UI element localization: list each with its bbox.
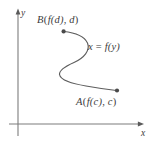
point-marker-a (115, 88, 119, 92)
y-axis (16, 9, 21, 137)
arrow-right-icon (138, 122, 144, 127)
point-label-a-inner-arg: (c) (90, 96, 102, 107)
point-label-a-comma: , (102, 96, 105, 107)
point-label-a-letter: A (76, 96, 83, 107)
curve-equation-label: x = f(y) (88, 42, 120, 53)
y-axis-label: y (21, 9, 25, 19)
point-label-b-close-paren: ) (75, 14, 79, 25)
point-marker-b (62, 29, 66, 33)
point-label-b-inner-arg: (d) (51, 14, 64, 25)
figure-container: y x B(f(d), d) A(f(c), c) x = f(y) (0, 0, 155, 144)
curve-equation-arg: (y) (108, 41, 120, 52)
point-label-b-comma: , (64, 14, 67, 25)
point-label-a-close-paren: ) (113, 96, 117, 107)
arrow-up-icon (16, 9, 21, 15)
x-axis (9, 122, 144, 127)
point-label-b: B(f(d), d) (37, 15, 79, 26)
curve-equation-lhs: x (88, 41, 93, 52)
point-label-b-letter: B (37, 14, 44, 25)
x-axis-label: x (141, 129, 145, 139)
point-label-a: A(f(c), c) (76, 97, 116, 108)
curve-equation-equals: = (96, 41, 102, 52)
